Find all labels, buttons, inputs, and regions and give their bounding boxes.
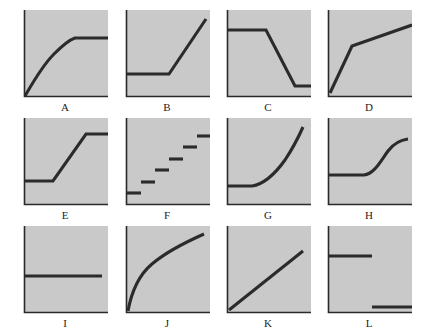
panel-label-f: F — [124, 206, 210, 224]
panel-label-i: I — [22, 314, 108, 332]
panel-svg-d — [326, 10, 412, 98]
panel-cell-a: A — [22, 10, 108, 118]
plot-background-g — [227, 118, 311, 204]
panel-plot-i — [22, 226, 108, 314]
panel-plot-d — [326, 10, 412, 98]
panel-plot-e — [22, 118, 108, 206]
plot-background-d — [328, 10, 412, 96]
plot-background-h — [328, 118, 412, 204]
panel-label-l: L — [326, 314, 412, 332]
panel-cell-i: I — [22, 226, 108, 334]
panel-cell-b: B — [124, 10, 210, 118]
panel-label-k: K — [225, 314, 311, 332]
panel-cell-d: D — [326, 10, 412, 118]
plot-background-i — [24, 226, 108, 312]
panel-plot-h — [326, 118, 412, 206]
panel-label-g: G — [225, 206, 311, 224]
panel-plot-l — [326, 226, 412, 314]
plot-background-c — [227, 10, 311, 96]
panel-svg-a — [22, 10, 108, 98]
panel-svg-f — [124, 118, 210, 206]
plot-background-a — [24, 10, 108, 96]
panel-label-b: B — [124, 98, 210, 116]
panel-label-e: E — [22, 206, 108, 224]
plot-background-k — [227, 226, 311, 312]
panel-plot-f — [124, 118, 210, 206]
panel-plot-a — [22, 10, 108, 98]
plot-background-j — [126, 226, 210, 312]
panel-svg-g — [225, 118, 311, 206]
panel-label-h: H — [326, 206, 412, 224]
panel-cell-h: H — [326, 118, 412, 226]
panel-svg-l — [326, 226, 412, 314]
panel-cell-g: G — [225, 118, 311, 226]
panel-cell-e: E — [22, 118, 108, 226]
panel-label-a: A — [22, 98, 108, 116]
panel-cell-k: K — [225, 226, 311, 334]
panel-plot-g — [225, 118, 311, 206]
panel-svg-i — [22, 226, 108, 314]
panel-svg-j — [124, 226, 210, 314]
panel-svg-e — [22, 118, 108, 206]
panel-svg-h — [326, 118, 412, 206]
plot-background-b — [126, 10, 210, 96]
panel-label-j: J — [124, 314, 210, 332]
plot-background-l — [328, 226, 412, 312]
panel-grid-figure: A B C — [0, 0, 433, 336]
plot-background-f — [126, 118, 210, 204]
panel-cell-c: C — [225, 10, 311, 118]
panel-plot-j — [124, 226, 210, 314]
panel-svg-k — [225, 226, 311, 314]
panel-label-d: D — [326, 98, 412, 116]
panel-grid: A B C — [0, 0, 433, 336]
panel-plot-b — [124, 10, 210, 98]
panel-svg-b — [124, 10, 210, 98]
panel-svg-c — [225, 10, 311, 98]
panel-plot-c — [225, 10, 311, 98]
panel-cell-j: J — [124, 226, 210, 334]
panel-label-c: C — [225, 98, 311, 116]
panel-plot-k — [225, 226, 311, 314]
panel-cell-f: F — [124, 118, 210, 226]
panel-cell-l: L — [326, 226, 412, 334]
